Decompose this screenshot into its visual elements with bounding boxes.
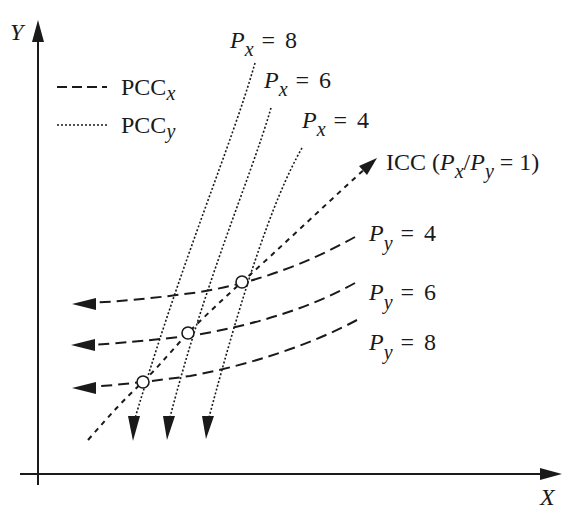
px-6-arrow-icon: [163, 416, 175, 440]
y-axis-arrow-icon: [32, 20, 44, 42]
px-4-curve: [207, 148, 302, 425]
legend: PCCx PCCy: [57, 74, 175, 143]
py-8-arrow-icon: [72, 382, 96, 394]
py-curves: [88, 237, 357, 387]
py-8-label: Py=8: [368, 329, 436, 364]
px-8-label: Px=8: [229, 27, 297, 60]
icc-curve-group: ICC (Px/Py = 1): [88, 149, 539, 440]
py-4-arrow-icon: [72, 298, 96, 310]
x-axis-arrow-icon: [540, 468, 562, 480]
px-arrowheads: [128, 416, 214, 441]
px-8-arrow-icon: [128, 416, 140, 441]
px-labels: Px=8 Px=6 Px=4: [229, 27, 369, 140]
icc-label: ICC (Px/Py = 1): [386, 149, 539, 183]
icc-curve: [88, 166, 368, 440]
equilibrium-point-px6-py6: [182, 327, 194, 339]
py-6-arrow-icon: [71, 339, 95, 351]
px-4-label: Px=4: [301, 107, 369, 140]
equilibrium-point-px8-py8: [137, 376, 149, 388]
py-labels: Py=4 Py=6 Py=8: [368, 220, 436, 364]
pcc-icc-diagram: Y X PCCx PCCy Px=8 Px=6 Px=4 Py=4 Py: [0, 0, 565, 516]
px-4-arrow-icon: [202, 416, 214, 439]
y-axis-label: Y: [10, 19, 26, 45]
x-axis-label: X: [539, 484, 556, 510]
py-4-curve: [88, 237, 355, 303]
py-6-curve: [88, 283, 355, 345]
px-6-label: Px=6: [263, 67, 331, 100]
legend-pcc-y-label: PCCy: [121, 112, 175, 143]
py-arrowheads: [71, 298, 96, 394]
py-4-label: Py=4: [368, 220, 436, 255]
equilibrium-point-px4-py4: [236, 276, 248, 288]
py-6-label: Py=6: [368, 279, 436, 314]
legend-pcc-x-label: PCCx: [121, 74, 175, 104]
